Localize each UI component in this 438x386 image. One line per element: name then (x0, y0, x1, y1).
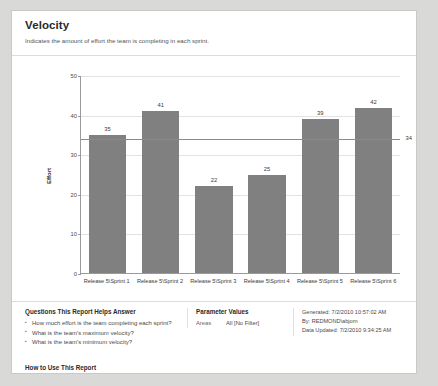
question-item: What is the team's maximum velocity? (25, 329, 183, 338)
metadata-column: Generated: 7/2/2010 10:57:02 AMBy: REDMO… (293, 308, 411, 336)
parameters-heading: Parameter Values (196, 308, 292, 315)
questions-list: How much effort is the team completing e… (25, 319, 183, 347)
metadata-list: Generated: 7/2/2010 10:57:02 AMBy: REDMO… (302, 308, 411, 336)
y-axis-tick-label: 10 (71, 231, 77, 237)
question-item: What is the team's minimum velocity? (25, 338, 183, 347)
y-axis-label: Effort (46, 168, 52, 184)
y-axis-tick-label: 50 (71, 73, 77, 79)
bar[interactable]: 35 (89, 135, 126, 273)
y-axis-tick-mark (78, 274, 81, 275)
x-axis-tick-label: Release 5\Sprint 4 (240, 278, 293, 284)
page-title: Velocity (25, 19, 69, 31)
y-axis-tick-label: 20 (71, 192, 77, 198)
bar-cell: 39 (294, 76, 347, 273)
parameter-list: AreasAll [No Filter] (196, 319, 292, 328)
y-axis-tick-label: 30 (71, 152, 77, 158)
x-axis-tick-label: Release 5\Sprint 1 (80, 278, 133, 284)
parameters-column: Parameter Values AreasAll [No Filter] (187, 308, 292, 328)
bar[interactable]: 41 (142, 111, 179, 273)
x-axis-tick-label: Release 5\Sprint 5 (293, 278, 346, 284)
bar[interactable]: 42 (355, 108, 392, 273)
questions-heading: Questions This Report Helps Answer (25, 308, 183, 315)
bar-value-label: 42 (370, 99, 376, 105)
velocity-bar-chart: Effort 0102030405035412225394234 Release… (12, 56, 418, 301)
bar-value-label: 25 (264, 166, 270, 172)
x-axis-labels: Release 5\Sprint 1Release 5\Sprint 2Rele… (80, 278, 400, 284)
y-axis-tick-label: 40 (71, 113, 77, 119)
metadata-line: By: REDMOND\abjorn (302, 317, 411, 326)
average-reference-line: 34 (81, 139, 400, 140)
bar-value-label: 39 (317, 110, 323, 116)
plot-area: 0102030405035412225394234 (80, 76, 400, 274)
question-item: How much effort is the team completing e… (25, 319, 183, 328)
bar-value-label: 22 (211, 177, 217, 183)
bar-cell: 35 (81, 76, 134, 273)
parameter-value: All [No Filter] (226, 319, 292, 328)
metadata-line: Generated: 7/2/2010 10:57:02 AM (302, 308, 411, 317)
bar-value-label: 35 (104, 126, 110, 132)
y-axis-tick-label: 0 (74, 271, 77, 277)
bar-value-label: 41 (158, 102, 164, 108)
bar-cell: 41 (134, 76, 187, 273)
parameter-name: Areas (196, 319, 226, 328)
x-axis-tick-label: Release 5\Sprint 3 (187, 278, 240, 284)
reference-line-value: 34 (406, 135, 412, 141)
bar-cell: 25 (241, 76, 294, 273)
metadata-line: Data Updated: 7/2/2010 9:34:25 AM (302, 326, 411, 335)
report-description: Indicates the amount of effort the team … (25, 37, 209, 44)
bar-series: 354122253942 (81, 76, 400, 273)
how-to-use-link[interactable]: How to Use This Report (25, 364, 96, 371)
x-axis-tick-label: Release 5\Sprint 2 (133, 278, 186, 284)
bar-cell: 22 (187, 76, 240, 273)
bar[interactable]: 22 (195, 186, 232, 273)
report-page: Velocity Indicates the amount of effort … (11, 10, 417, 374)
questions-column: Questions This Report Helps Answer How m… (25, 308, 183, 348)
report-footer: Questions This Report Helps Answer How m… (12, 302, 418, 374)
bar-cell: 42 (347, 76, 400, 273)
bar[interactable]: 39 (302, 119, 339, 273)
bar[interactable]: 25 (248, 175, 285, 274)
x-axis-tick-label: Release 5\Sprint 6 (347, 278, 400, 284)
parameter-row: AreasAll [No Filter] (196, 319, 292, 328)
